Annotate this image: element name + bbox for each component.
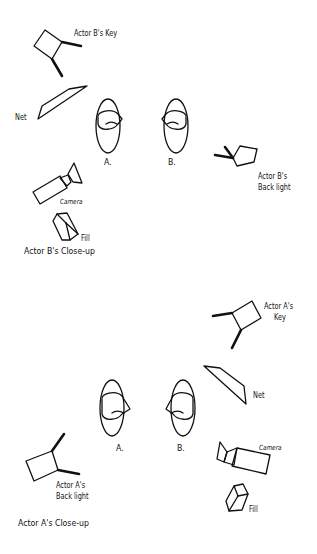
back-light-label-line2: Back light [56, 492, 89, 502]
actor-a-label: A. [116, 443, 124, 453]
back-light-icon [26, 434, 79, 481]
net-icon [204, 366, 246, 404]
back-light-label-line1: Actor B's [258, 172, 287, 182]
actor-b-icon [166, 380, 195, 436]
diagram-title: Actor B's Close-up [24, 246, 95, 256]
camera-label: Camera [259, 443, 282, 453]
actor-b-icon [162, 99, 188, 153]
key-light-label-line2: Key [274, 313, 286, 323]
diagram-title: Actor A's Close-up [18, 518, 89, 528]
lighting-diagram: Actor B's Key Net A. B. Actor B's Back l… [0, 0, 317, 554]
back-light-label-line2: Back light [258, 183, 291, 193]
back-light-label-line1: Actor A's [56, 481, 85, 491]
key-light-label: Actor B's Key [74, 29, 117, 39]
net-icon [38, 86, 87, 119]
actor-a-label: A. [104, 157, 112, 167]
fill-label: Fill [81, 234, 90, 244]
actor-a-icon [100, 380, 130, 436]
camera-label: Camera [60, 197, 83, 207]
actor-b-label: B. [177, 443, 185, 453]
diagram-drawing [0, 0, 317, 554]
key-light-label-line1: Actor A's [264, 302, 293, 312]
fill-label: Fill [249, 505, 258, 515]
actor-b-label: B. [168, 157, 176, 167]
actor-a-icon [96, 99, 122, 153]
net-label: Net [15, 113, 27, 123]
fill-light-icon [53, 213, 78, 240]
back-light-icon [215, 146, 257, 166]
fill-light-icon [226, 484, 248, 511]
key-light-icon [213, 301, 261, 348]
net-label: Net [253, 391, 265, 401]
